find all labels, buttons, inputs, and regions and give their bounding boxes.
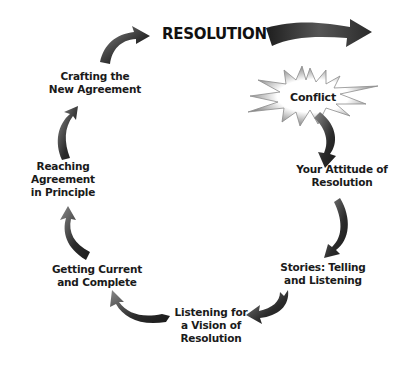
resolution-title: RESOLUTION	[162, 25, 267, 43]
step-getting-current-complete: Getting Current and Complete	[42, 263, 152, 289]
step-reaching-agreement: Reaching Agreement in Principle	[20, 160, 106, 199]
arrow-agreement-to-crafting	[58, 106, 78, 160]
step-stories-telling-listening: Stories: Telling and Listening	[268, 261, 378, 287]
step-listening-for-vision: Listening for a Vision of Resolution	[164, 306, 258, 345]
step-crafting-new-agreement: Crafting the New Agreement	[40, 70, 150, 96]
arrow-crafting-to-resolution	[100, 26, 150, 64]
step-attitude-of-resolution: Your Attitude of Resolution	[282, 163, 402, 189]
arrow-vision-to-current	[110, 290, 170, 323]
conflict-label: Conflict	[286, 91, 340, 104]
resolution-big-arrow	[266, 19, 372, 47]
arrow-attitude-to-stories	[324, 198, 348, 258]
arrow-conflict-to-attitude	[314, 112, 336, 168]
arrow-current-to-agreement	[60, 206, 90, 260]
